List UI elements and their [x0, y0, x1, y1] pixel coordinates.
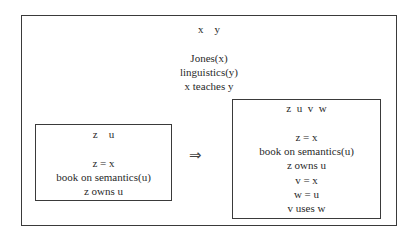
right-condition: z = x: [233, 130, 380, 144]
right-condition: w = u: [233, 187, 380, 201]
right-condition: v uses w: [233, 201, 380, 215]
right-condition: book on semantics(u): [233, 144, 380, 158]
right-condition: z owns u: [233, 158, 380, 172]
left-condition: book on semantics(u): [36, 170, 171, 184]
outer-condition: x teaches y: [22, 79, 396, 93]
outer-condition: linguistics(y): [22, 65, 396, 79]
left-condition: z owns u: [36, 184, 171, 198]
left-condition: z = x: [36, 156, 171, 170]
right-condition: v = x: [233, 173, 380, 187]
outer-universe: x y: [22, 22, 396, 36]
antecedent-drs-box: z u z = x book on semantics(u) z owns u: [35, 124, 172, 201]
outer-condition: Jones(x): [22, 51, 396, 65]
right-universe: z u v w: [233, 101, 380, 115]
consequent-drs-box: z u v w z = x book on semantics(u) z own…: [232, 99, 381, 219]
left-universe: z u: [36, 127, 171, 141]
implication-arrow-icon: ⇒: [189, 146, 202, 164]
